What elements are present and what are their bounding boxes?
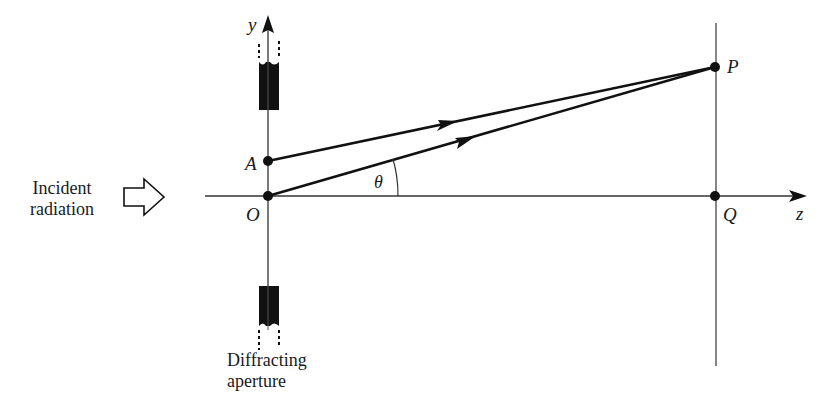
point-O-dot [263, 191, 273, 201]
aperture-screen-bottom [259, 286, 279, 350]
point-O-label: O [246, 205, 260, 225]
aperture-label-line2: aperture [227, 371, 307, 392]
incident-radiation-label: Incident radiation [30, 178, 94, 220]
diffraction-diagram [0, 0, 835, 411]
angle-theta-arc [393, 159, 398, 196]
diffracting-aperture-label: Diffracting aperture [227, 350, 307, 392]
aperture-screen-top [259, 41, 279, 110]
y-axis-label: y [248, 15, 256, 35]
ray-A-to-P [268, 67, 715, 161]
incident-label-line1: Incident [30, 178, 94, 199]
incident-radiation-arrow-icon [124, 179, 164, 215]
ray-O-to-P [268, 67, 715, 196]
point-A-dot [263, 156, 273, 166]
incident-label-line2: radiation [30, 199, 94, 220]
ray-arrow-icon [455, 136, 476, 149]
point-Q-label: Q [723, 205, 737, 225]
point-P-label: P [727, 57, 739, 77]
point-A-label: A [245, 154, 257, 174]
point-P-dot [710, 62, 720, 72]
point-Q-dot [710, 191, 720, 201]
y-axis [262, 15, 274, 292]
angle-theta-label: θ [374, 172, 383, 192]
aperture-label-line1: Diffracting [227, 350, 307, 371]
z-axis-label: z [796, 204, 803, 224]
